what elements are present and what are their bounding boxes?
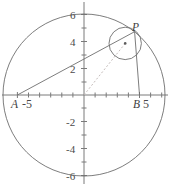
y-tick-label-4: 4 <box>70 37 76 48</box>
point-label-p: P <box>132 22 139 34</box>
y-tick-label-2: 2 <box>70 64 76 75</box>
y-tick-label-6: 6 <box>70 10 76 21</box>
geometry-figure: 6 4 2 -2 -4 -6 -5 5 A B P <box>0 0 170 186</box>
small-circle-center-dot <box>124 42 127 45</box>
y-tick-label-neg6: -6 <box>66 171 75 182</box>
point-label-b: B <box>133 99 140 111</box>
chord-b-to-p <box>135 32 140 95</box>
y-tick-label-neg4: -4 <box>66 144 75 155</box>
chord-a-to-p <box>17 32 134 95</box>
x-tick-label-neg5: -5 <box>22 98 32 110</box>
plot-canvas <box>0 0 170 186</box>
point-label-a: A <box>11 99 18 111</box>
dashed-radius-line <box>84 43 125 95</box>
x-tick-label-5: 5 <box>143 98 149 110</box>
y-tick-label-neg2: -2 <box>66 117 75 128</box>
